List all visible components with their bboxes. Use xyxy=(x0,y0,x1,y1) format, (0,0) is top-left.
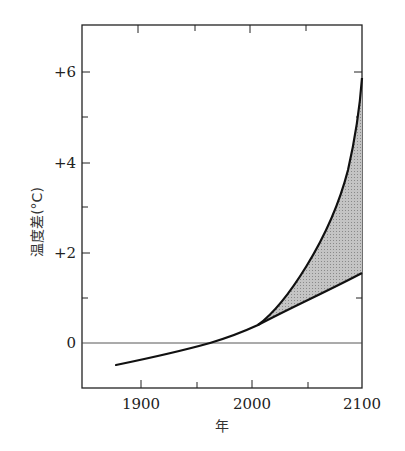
y-tick-label-6: +6 xyxy=(54,63,76,81)
y-tick-label-0: 0 xyxy=(66,334,76,352)
uncertainty-band xyxy=(258,78,362,325)
x-tick-label-1900: 1900 xyxy=(122,395,160,413)
x-tick-label-2100: 2100 xyxy=(343,395,381,413)
temperature-chart: +6 +4 +2 0 1900 2000 2100 年 温度差(°C) xyxy=(0,0,405,451)
y-axis-title: 温度差(°C) xyxy=(29,187,45,257)
historical-curve xyxy=(116,325,258,365)
x-axis-title: 年 xyxy=(215,418,229,434)
plot-frame xyxy=(82,25,362,388)
x-tick-label-2000: 2000 xyxy=(233,395,271,413)
y-tick-label-4: +4 xyxy=(54,154,76,172)
y-ticks-left xyxy=(82,72,90,298)
y-tick-label-2: +2 xyxy=(54,244,76,262)
x-ticks-top xyxy=(138,25,306,33)
x-ticks-bottom xyxy=(141,380,308,388)
